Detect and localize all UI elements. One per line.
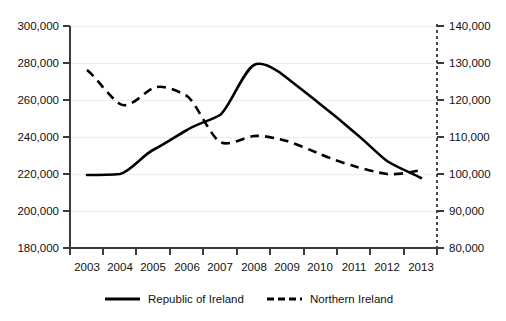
x-tick-label-2008: 2008 bbox=[241, 261, 267, 273]
right-tick-label-110000: 110,000 bbox=[449, 131, 490, 143]
right-tick-label-90000: 90,000 bbox=[449, 205, 484, 217]
right-tick-label-120000: 120,000 bbox=[449, 94, 491, 106]
left-axis: 300,000 280,000 260,000 240,000 220,000 … bbox=[17, 20, 70, 254]
chart-legend: Republic of Ireland Northern Ireland bbox=[105, 293, 393, 305]
x-axis-labels: 2003 2004 2005 2006 2007 2008 2009 2010 … bbox=[74, 261, 434, 273]
series-republic-of-ireland bbox=[87, 64, 421, 178]
left-tick-label-200000: 200,000 bbox=[17, 205, 59, 217]
left-tick-label-280000: 280,000 bbox=[17, 57, 59, 69]
x-tick-label-2004: 2004 bbox=[107, 261, 133, 273]
right-tick-label-80000: 80,000 bbox=[449, 242, 484, 254]
left-tick-label-220000: 220,000 bbox=[17, 168, 59, 180]
legend-label-northern-ireland: Northern Ireland bbox=[310, 293, 393, 305]
right-tick-label-130000: 130,000 bbox=[449, 57, 491, 69]
right-tick-label-140000: 140,000 bbox=[449, 20, 491, 32]
series-northern-ireland bbox=[87, 70, 421, 174]
line-chart: 300,000 280,000 260,000 240,000 220,000 … bbox=[0, 0, 506, 321]
left-tick-label-180000: 180,000 bbox=[17, 242, 59, 254]
x-tick-label-2005: 2005 bbox=[140, 261, 166, 273]
legend-label-republic-of-ireland: Republic of Ireland bbox=[148, 293, 244, 305]
x-tick-label-2009: 2009 bbox=[274, 261, 300, 273]
left-tick-label-240000: 240,000 bbox=[17, 131, 59, 143]
x-tick-label-2007: 2007 bbox=[207, 261, 233, 273]
series-group bbox=[87, 64, 421, 178]
x-tick-label-2006: 2006 bbox=[174, 261, 200, 273]
x-tick-label-2010: 2010 bbox=[307, 261, 333, 273]
chart-figure: 300,000 280,000 260,000 240,000 220,000 … bbox=[0, 0, 506, 321]
gridlines bbox=[70, 26, 437, 211]
x-tick-label-2003: 2003 bbox=[74, 261, 100, 273]
x-axis: 2003 2004 2005 2006 2007 2008 2009 2010 … bbox=[70, 248, 437, 273]
left-tick-label-300000: 300,000 bbox=[17, 20, 59, 32]
right-tick-label-100000: 100,000 bbox=[449, 168, 491, 180]
x-axis-ticks bbox=[70, 248, 437, 255]
x-tick-label-2011: 2011 bbox=[342, 261, 367, 273]
right-axis: 140,000 130,000 120,000 110,000 100,000 … bbox=[437, 20, 491, 254]
left-tick-label-260000: 260,000 bbox=[17, 94, 59, 106]
x-tick-label-2012: 2012 bbox=[374, 261, 400, 273]
x-tick-label-2013: 2013 bbox=[408, 261, 434, 273]
